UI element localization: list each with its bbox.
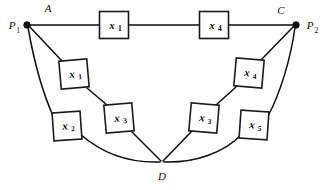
edge-e-midx3-d [131,131,161,161]
block-label-subscript: 4 [218,24,222,33]
edge-e-midx1-midx3 [87,88,107,105]
block-mid-left-x1[interactable]: x1 [59,59,89,89]
node-tag-a: A [44,2,52,14]
edges-layer [28,25,295,162]
node-label-subscript: 1 [17,26,21,35]
diagram-canvas: x1x4x1x3x2x4x3x5 P1AP2CD [0,0,324,190]
block-outer-right-x5[interactable]: x5 [239,110,269,140]
edge-e-midx3r-midx4r [216,87,236,105]
node-dot [24,22,30,28]
block-mid-left-x3[interactable]: x3 [104,103,134,133]
node-label-subscript: 2 [315,26,319,35]
node-label: D [157,170,166,182]
block-label-subscript: 1 [118,24,122,33]
block-top-x1[interactable]: x1 [100,12,129,39]
block-mid-right-x3[interactable]: x3 [189,103,219,133]
blocks-layer: x1x4x1x3x2x4x3x5 [52,12,269,141]
edge-e-outx5-p2 [268,27,295,116]
node-tag-c: C [277,4,285,16]
edge-e-d-midx3r [163,131,192,161]
nodes-layer: P1AP2CD [8,2,319,182]
block-outer-left-x2[interactable]: x2 [52,111,82,141]
node-P2[interactable]: P2C [277,4,318,35]
node-D[interactable]: D [157,170,166,182]
edge-e-midx4r-p2 [261,26,294,60]
node-label: P [306,19,314,31]
block-label: x [208,19,215,31]
node-label: P [8,19,16,31]
block-top-x4[interactable]: x4 [200,12,229,39]
edge-e-p1-outx2 [28,27,54,118]
node-dot [293,22,299,28]
block-mid-right-x4[interactable]: x4 [234,58,264,88]
diagram-svg: x1x4x1x3x2x4x3x5 P1AP2CD [0,0,324,190]
block-label: x [108,19,115,31]
node-P1[interactable]: P1A [8,2,52,35]
